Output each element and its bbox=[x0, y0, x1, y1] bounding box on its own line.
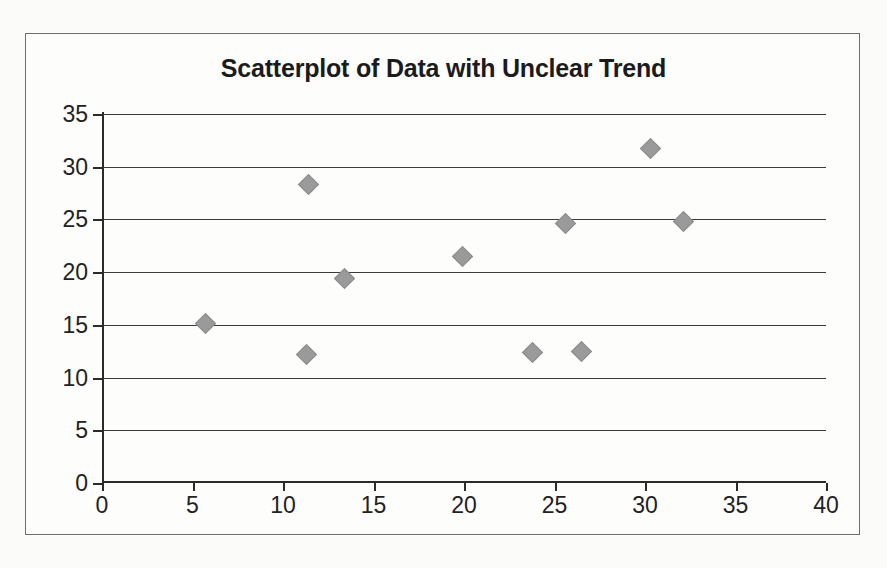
gridline bbox=[102, 430, 826, 431]
x-axis-tick-label: 5 bbox=[186, 492, 199, 519]
plot-area: 05101520253035 0510152025303540 bbox=[102, 114, 826, 483]
x-axis-tick bbox=[555, 483, 557, 491]
x-axis-tick-label: 35 bbox=[723, 492, 749, 519]
y-axis-tick bbox=[93, 430, 102, 432]
x-axis-tick-label: 20 bbox=[451, 492, 477, 519]
x-axis-tick bbox=[283, 483, 285, 491]
data-point-marker bbox=[195, 313, 216, 334]
y-axis-tick bbox=[93, 114, 102, 116]
x-axis-tick-label: 30 bbox=[632, 492, 658, 519]
y-axis-tick bbox=[93, 325, 102, 327]
data-point-marker bbox=[522, 342, 543, 363]
gridline bbox=[102, 167, 826, 168]
x-axis-tick bbox=[464, 483, 466, 491]
y-axis-line bbox=[102, 112, 104, 485]
x-axis-tick bbox=[826, 483, 828, 491]
x-axis-tick-label: 10 bbox=[270, 492, 296, 519]
y-axis-tick bbox=[93, 378, 102, 380]
data-point-marker bbox=[571, 341, 592, 362]
y-axis-tick bbox=[93, 167, 102, 169]
y-axis-tick-label: 20 bbox=[62, 259, 88, 286]
x-axis-tick-label: 40 bbox=[813, 492, 839, 519]
chart-title: Scatterplot of Data with Unclear Trend bbox=[26, 54, 861, 83]
gridline bbox=[102, 272, 826, 273]
y-axis-tick bbox=[93, 219, 102, 221]
data-point-marker bbox=[452, 246, 473, 267]
x-axis-tick bbox=[374, 483, 376, 491]
y-axis-tick-label: 5 bbox=[75, 417, 88, 444]
y-axis-tick-label: 0 bbox=[75, 470, 88, 497]
chart-frame: Scatterplot of Data with Unclear Trend 0… bbox=[25, 33, 860, 535]
y-axis-tick-label: 25 bbox=[62, 206, 88, 233]
y-axis-tick bbox=[93, 483, 102, 485]
data-point-marker bbox=[334, 268, 355, 289]
scanned-page-background: Scatterplot of Data with Unclear Trend 0… bbox=[0, 0, 887, 568]
data-point-marker bbox=[296, 344, 317, 365]
y-axis-tick-label: 15 bbox=[62, 311, 88, 338]
gridline bbox=[102, 378, 826, 379]
gridline bbox=[102, 114, 826, 115]
data-point-marker bbox=[640, 138, 661, 159]
x-axis-tick bbox=[102, 483, 104, 491]
gridline bbox=[102, 219, 826, 220]
y-axis-tick bbox=[93, 272, 102, 274]
data-point-marker bbox=[298, 174, 319, 195]
y-axis-tick-label: 35 bbox=[62, 101, 88, 128]
x-axis-tick-label: 0 bbox=[96, 492, 109, 519]
data-point-marker bbox=[672, 211, 693, 232]
x-axis-tick bbox=[736, 483, 738, 491]
x-axis-tick-label: 25 bbox=[542, 492, 568, 519]
y-axis-tick-label: 10 bbox=[62, 364, 88, 391]
x-axis-tick bbox=[645, 483, 647, 491]
y-axis-tick-label: 30 bbox=[62, 153, 88, 180]
x-axis-tick bbox=[193, 483, 195, 491]
x-axis-tick-label: 15 bbox=[361, 492, 387, 519]
data-point-marker bbox=[555, 213, 576, 234]
